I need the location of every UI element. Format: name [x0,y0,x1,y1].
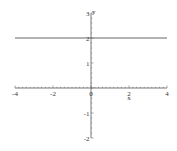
x-tick-label: 4 [165,90,169,98]
x-tick-label: -2 [50,90,56,98]
x-tick-label: -4 [12,90,18,98]
y-tick-label: 3 [86,10,90,18]
x-axis-label: x [127,94,131,102]
y-tick-label: -2 [84,135,90,143]
y-tick-label: 1 [86,60,90,68]
plot-canvas: -4-2024-2-1123xy [0,0,177,151]
y-tick-label: -1 [84,110,90,118]
y-tick-label: 2 [86,35,90,43]
axes [15,13,167,138]
y-axis-label: y [92,8,96,16]
x-tick-label: 0 [89,90,93,98]
